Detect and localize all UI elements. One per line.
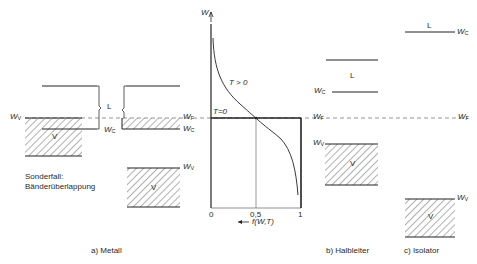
label-wf-semi: WF bbox=[313, 113, 324, 122]
insulator-bands bbox=[405, 32, 455, 237]
special-case-line1: Sonderfall: bbox=[25, 172, 95, 182]
metal-band-right bbox=[122, 86, 180, 129]
label-l-insulator: L bbox=[427, 22, 431, 30]
label-wv-semi: WV bbox=[313, 139, 324, 148]
caption-insulator: c) Isolator bbox=[404, 246, 439, 256]
tick-0: 0 bbox=[209, 211, 213, 219]
label-v-insulator: V bbox=[428, 213, 433, 221]
fermi-plot bbox=[209, 12, 301, 224]
metal-band-left bbox=[25, 86, 101, 156]
tick-1: 1 bbox=[298, 211, 302, 219]
label-wc-semi: WC bbox=[314, 87, 326, 96]
label-wc-metal: WC bbox=[104, 126, 116, 135]
label-wc-insulator: WC bbox=[457, 28, 469, 37]
band-diagram-figure bbox=[0, 0, 477, 264]
label-wv-overlap: WV bbox=[183, 163, 194, 172]
label-wf-metal: WF bbox=[183, 113, 194, 122]
label-wc-metal-right: WC bbox=[183, 125, 195, 134]
label-wf-insulator: WF bbox=[458, 113, 469, 122]
x-axis-label: f(W,T) bbox=[252, 218, 274, 226]
label-wv-metal: WV bbox=[10, 113, 21, 122]
label-v-metal: V bbox=[52, 133, 57, 141]
label-v-semi: V bbox=[350, 160, 355, 168]
label-l-metal: L bbox=[107, 103, 111, 111]
label-l-semi: L bbox=[350, 72, 354, 80]
special-case-label: Sonderfall: Bänderüberlappung bbox=[25, 172, 95, 191]
label-t-zero: T=0 bbox=[213, 108, 227, 116]
caption-semiconductor: b) Halbleiter bbox=[326, 246, 369, 256]
label-v-overlap: V bbox=[151, 184, 156, 192]
label-wv-insulator: WV bbox=[457, 194, 468, 203]
caption-metal: a) Metall bbox=[91, 246, 122, 256]
axis-label-w: W bbox=[201, 9, 209, 17]
special-case-line2: Bänderüberlappung bbox=[25, 182, 95, 192]
label-t-hot: T > 0 bbox=[229, 79, 247, 87]
